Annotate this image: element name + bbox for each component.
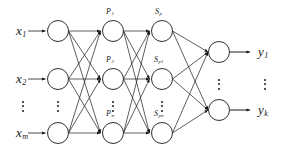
- input-node: [48, 21, 69, 42]
- output-arrows: [230, 52, 251, 110]
- s-node: [152, 21, 173, 42]
- output-node-ellipsis: [214, 76, 224, 92]
- output-node: [209, 42, 230, 63]
- input-label-xm: xm: [16, 126, 28, 139]
- s-node: [152, 69, 173, 90]
- p-label-1: P1: [106, 8, 114, 16]
- p-nodes: [103, 21, 124, 144]
- edges-input-to-p: [69, 31, 101, 133]
- p-node: [103, 123, 124, 144]
- input-node: [48, 123, 69, 144]
- edges-p-to-s: [124, 31, 150, 133]
- input-node: [48, 69, 69, 90]
- output-label-y1: y1: [258, 45, 268, 58]
- network-graph: [0, 0, 282, 154]
- input-label-x2: x2: [16, 72, 26, 85]
- input-label-ellipsis: [18, 98, 28, 114]
- input-node-ellipsis: [53, 98, 63, 114]
- neural-network-figure: x1 x2 xm P1 P2 Pn Sp Sp1 Spn y1 yk: [0, 0, 282, 154]
- s-node: [152, 123, 173, 144]
- output-label-ellipsis: [260, 76, 270, 92]
- p-label-2: P2: [106, 56, 114, 64]
- output-node: [209, 100, 230, 121]
- p-node-ellipsis: [108, 98, 118, 114]
- output-label-yk: yk: [258, 103, 268, 116]
- s-nodes: [152, 21, 173, 144]
- edges-s-to-output: [173, 31, 209, 133]
- s-label-p1: Sp1: [154, 56, 163, 64]
- p-node: [103, 69, 124, 90]
- p-node: [103, 21, 124, 42]
- input-nodes: [48, 21, 69, 144]
- input-arrows: [28, 31, 46, 133]
- input-label-x1: x1: [16, 24, 26, 37]
- s-label-p: Sp: [155, 8, 162, 16]
- s-node-ellipsis: [157, 98, 167, 114]
